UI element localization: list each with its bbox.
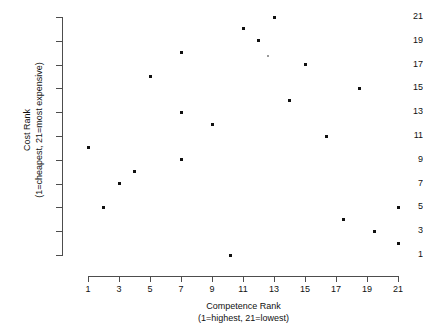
x-tick-mark	[305, 276, 306, 282]
data-point	[342, 218, 345, 221]
x-tick-mark	[367, 276, 368, 282]
y-tick-mark	[56, 136, 62, 137]
plot-area: 13579111315171921 13579111315171921 Comp…	[0, 0, 423, 334]
y-tick-label: 3	[379, 226, 423, 235]
x-tick-mark	[274, 276, 275, 282]
y-tick-label: 9	[379, 155, 423, 164]
x-tick-label: 19	[355, 285, 379, 294]
data-point	[373, 230, 376, 233]
data-point	[397, 206, 400, 209]
y-tick-label: 1	[379, 250, 423, 259]
data-point	[242, 27, 245, 30]
x-axis-title-main: Competence Rank	[206, 301, 281, 311]
x-tick-mark	[212, 276, 213, 282]
data-point	[87, 146, 90, 149]
y-tick-label: 5	[379, 202, 423, 211]
data-point	[397, 242, 400, 245]
y-tick-label: 7	[379, 179, 423, 188]
x-tick-label: 5	[138, 285, 162, 294]
x-tick-label: 15	[293, 285, 317, 294]
data-point	[133, 170, 136, 173]
x-tick-mark	[88, 276, 89, 282]
y-tick-mark	[56, 184, 62, 185]
data-point	[358, 87, 361, 90]
data-point	[325, 135, 328, 138]
scatter-plot-figure: 13579111315171921 13579111315171921 Comp…	[0, 0, 423, 334]
data-point	[149, 75, 152, 78]
data-point	[180, 158, 183, 161]
y-tick-mark	[56, 88, 62, 89]
x-tick-label: 9	[200, 285, 224, 294]
x-tick-mark	[181, 276, 182, 282]
x-tick-label: 11	[231, 285, 255, 294]
y-tick-mark	[56, 41, 62, 42]
x-tick-label: 21	[386, 285, 410, 294]
data-point	[211, 123, 214, 126]
x-tick-label: 7	[169, 285, 193, 294]
data-point	[273, 16, 276, 19]
x-axis-title-sub: (1=highest, 21=lowest)	[88, 312, 399, 324]
y-tick-mark	[56, 112, 62, 113]
data-point	[180, 111, 183, 114]
y-axis-line	[62, 17, 63, 256]
x-tick-mark	[150, 276, 151, 282]
y-tick-label: 21	[379, 12, 423, 21]
x-tick-label: 3	[107, 285, 131, 294]
y-tick-mark	[56, 17, 62, 18]
data-point	[267, 55, 269, 57]
data-point	[118, 182, 121, 185]
y-tick-mark	[56, 231, 62, 232]
y-tick-label: 11	[379, 131, 423, 140]
data-point	[288, 99, 291, 102]
x-tick-label: 13	[262, 285, 286, 294]
x-tick-mark	[243, 276, 244, 282]
y-tick-label: 13	[379, 107, 423, 116]
y-axis-title-sub: (1=cheapest, 21=most expensive)	[33, 11, 45, 250]
y-tick-mark	[56, 207, 62, 208]
data-point	[229, 254, 232, 257]
y-tick-mark	[56, 65, 62, 66]
y-axis-title: Cost Rank (1=cheapest, 21=most expensive…	[21, 11, 45, 250]
x-tick-mark	[398, 276, 399, 282]
y-tick-mark	[56, 160, 62, 161]
y-axis-title-main: Cost Rank	[21, 11, 33, 250]
y-tick-label: 17	[379, 60, 423, 69]
x-tick-mark	[336, 276, 337, 282]
data-point	[180, 51, 183, 54]
y-tick-mark	[56, 255, 62, 256]
x-tick-label: 17	[324, 285, 348, 294]
x-tick-label: 1	[76, 285, 100, 294]
x-tick-mark	[119, 276, 120, 282]
y-tick-label: 19	[379, 36, 423, 45]
data-point	[102, 206, 105, 209]
data-point	[257, 39, 260, 42]
x-axis-title: Competence Rank (1=highest, 21=lowest)	[88, 300, 399, 324]
y-tick-label: 15	[379, 83, 423, 92]
data-point	[304, 63, 307, 66]
